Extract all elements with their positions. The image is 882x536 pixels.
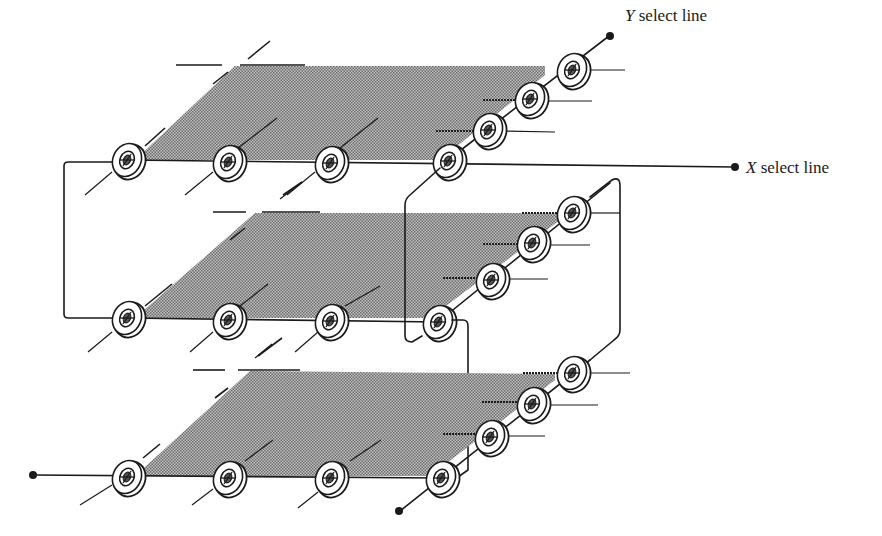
core-memory-diagram [0,0,882,536]
bottom-left-terminal [29,471,37,479]
x-select-terminal [731,163,739,171]
x-variable: X [746,158,756,177]
right-loop-wire [590,179,620,360]
x-select-line-label: X select line [746,158,829,178]
y-select-terminal [606,32,614,40]
left-loop-wire [64,162,112,318]
bottom-terminal [395,507,403,515]
y-label-text: select line [634,6,707,25]
memory-plane-top [85,36,735,199]
x-label-text: select line [756,158,829,177]
memory-plane-bottom [29,338,630,515]
y-select-line-label: Y select line [625,6,707,26]
memory-plane-middle [88,182,620,358]
